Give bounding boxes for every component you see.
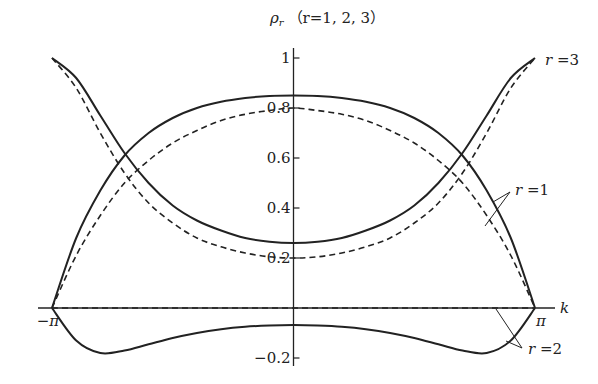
annotation-r1: r =1 — [515, 181, 549, 199]
x-tick-label: π — [535, 312, 547, 330]
y-axis-label: ρr（r=1, 2, 3） — [269, 9, 385, 28]
labels: 10.80.60.40.2−0.2−ππkρr（r=1, 2, 3）r =3r … — [37, 9, 579, 367]
x-tick-label: −π — [37, 312, 61, 330]
y-tick-label: 1 — [281, 49, 291, 67]
annotation-r2: r =2 — [528, 340, 562, 358]
leader-line-r1 — [485, 192, 510, 226]
y-tick-label: 0.8 — [267, 99, 291, 117]
annotation-r3: r =3 — [545, 51, 579, 69]
y-tick-label: −0.2 — [254, 349, 290, 367]
y-tick-label: 0.6 — [267, 149, 291, 167]
chart-canvas: 10.80.60.40.2−0.2−ππkρr（r=1, 2, 3）r =3r … — [0, 0, 598, 384]
x-axis-label: k — [560, 299, 569, 317]
leader-line-r1 — [493, 192, 510, 202]
y-tick-label: 0.2 — [267, 249, 291, 267]
y-tick-label: 0.4 — [267, 199, 291, 217]
